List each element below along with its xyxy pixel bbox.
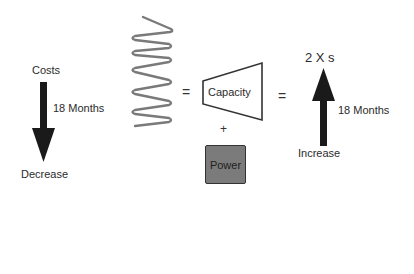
up-arrow-icon — [0, 0, 414, 274]
right-period-label: 18 Months — [338, 104, 389, 116]
increase-label: Increase — [298, 147, 340, 159]
